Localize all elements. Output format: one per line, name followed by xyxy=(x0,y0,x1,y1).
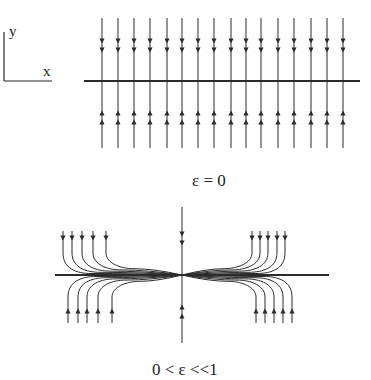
trajectory-curve xyxy=(112,275,182,323)
arrow-down-icon xyxy=(282,236,287,241)
arrow-down-icon xyxy=(195,39,200,44)
arrow-down-icon xyxy=(228,48,233,53)
arrow-up-icon xyxy=(324,111,329,116)
x-axis-label: x xyxy=(43,63,51,79)
arrow-up-icon xyxy=(147,111,152,116)
bottom-caption: 0 < ε <<1 xyxy=(152,360,218,380)
trajectory-curve xyxy=(182,275,256,323)
arrow-up-icon xyxy=(340,111,345,116)
arrow-up-icon xyxy=(147,120,152,125)
arrow-down-icon xyxy=(90,236,95,241)
arrow-up-icon xyxy=(275,111,280,116)
arrow-up-icon xyxy=(179,314,184,319)
arrow-down-icon xyxy=(258,39,263,44)
phase-portrait-diagram: y x xyxy=(0,0,371,380)
arrow-down-icon xyxy=(243,48,248,53)
arrow-up-icon xyxy=(115,111,120,116)
arrow-down-icon xyxy=(291,39,296,44)
arrow-down-icon xyxy=(274,236,279,241)
arrow-up-icon xyxy=(179,305,184,310)
arrow-up-icon xyxy=(308,111,313,116)
arrow-up-icon xyxy=(271,309,276,314)
arrow-down-icon xyxy=(275,39,280,44)
arrow-down-icon xyxy=(265,236,270,241)
arrow-down-icon xyxy=(179,39,184,44)
arrow-up-icon xyxy=(164,120,169,125)
arrow-down-icon xyxy=(115,39,120,44)
arrow-down-icon xyxy=(147,39,152,44)
axes-legend: y x xyxy=(4,23,52,81)
arrow-down-icon xyxy=(340,48,345,53)
top-caption: ε = 0 xyxy=(192,171,226,191)
arrow-down-icon xyxy=(99,39,104,44)
arrow-down-icon xyxy=(164,48,169,53)
arrow-up-icon xyxy=(195,111,200,116)
arrow-down-icon xyxy=(103,236,108,241)
arrow-down-icon xyxy=(164,39,169,44)
arrow-up-icon xyxy=(308,120,313,125)
arrow-up-icon xyxy=(228,111,233,116)
arrow-up-icon xyxy=(258,111,263,116)
arrow-up-icon xyxy=(195,120,200,125)
arrow-down-icon xyxy=(211,39,216,44)
arrow-down-icon xyxy=(308,48,313,53)
trajectory-curve xyxy=(98,275,182,323)
arrow-down-icon xyxy=(243,39,248,44)
arrow-up-icon xyxy=(291,120,296,125)
arrow-down-icon xyxy=(179,241,184,246)
arrow-down-icon xyxy=(211,48,216,53)
arrow-up-icon xyxy=(258,120,263,125)
arrow-down-icon xyxy=(308,39,313,44)
trajectory-curve xyxy=(87,275,182,323)
trajectory-curve xyxy=(182,275,265,323)
arrow-down-icon xyxy=(131,39,136,44)
arrow-down-icon xyxy=(115,48,120,53)
arrow-down-icon xyxy=(79,236,84,241)
arrow-up-icon xyxy=(243,120,248,125)
trajectory-curve xyxy=(182,275,274,323)
arrow-up-icon xyxy=(211,120,216,125)
arrow-down-icon xyxy=(131,48,136,53)
arrow-up-icon xyxy=(291,111,296,116)
arrow-down-icon xyxy=(324,48,329,53)
arrow-down-icon xyxy=(275,48,280,53)
arrow-down-icon xyxy=(324,39,329,44)
arrow-up-icon xyxy=(99,120,104,125)
arrow-down-icon xyxy=(60,236,65,241)
arrow-up-icon xyxy=(280,309,285,314)
y-axis-label: y xyxy=(9,23,17,39)
arrow-up-icon xyxy=(289,309,294,314)
arrow-up-icon xyxy=(115,120,120,125)
arrow-down-icon xyxy=(179,232,184,237)
trajectory-curve xyxy=(182,231,252,275)
arrow-down-icon xyxy=(179,48,184,53)
arrow-up-icon xyxy=(262,309,267,314)
arrow-down-icon xyxy=(147,48,152,53)
top-phase-portrait xyxy=(84,18,360,148)
arrow-up-icon xyxy=(99,111,104,116)
trajectory-curve xyxy=(182,231,285,275)
arrow-up-icon xyxy=(228,120,233,125)
arrow-up-icon xyxy=(131,120,136,125)
arrow-down-icon xyxy=(340,39,345,44)
arrow-down-icon xyxy=(257,236,262,241)
arrow-up-icon xyxy=(75,309,80,314)
arrow-up-icon xyxy=(65,309,70,314)
arrow-down-icon xyxy=(228,39,233,44)
arrow-up-icon xyxy=(179,120,184,125)
arrow-up-icon xyxy=(109,309,114,314)
arrow-up-icon xyxy=(164,111,169,116)
arrow-down-icon xyxy=(258,48,263,53)
arrow-up-icon xyxy=(275,120,280,125)
arrow-up-icon xyxy=(131,111,136,116)
arrow-down-icon xyxy=(249,236,254,241)
arrow-down-icon xyxy=(291,48,296,53)
arrow-up-icon xyxy=(84,309,89,314)
arrow-up-icon xyxy=(253,309,258,314)
arrow-up-icon xyxy=(340,120,345,125)
arrow-up-icon xyxy=(95,309,100,314)
trajectory-curve xyxy=(182,275,283,323)
arrow-up-icon xyxy=(243,111,248,116)
arrow-down-icon xyxy=(195,48,200,53)
arrow-up-icon xyxy=(179,111,184,116)
